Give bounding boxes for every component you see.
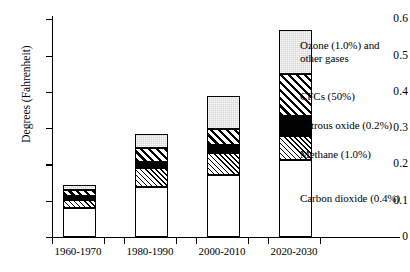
- bar-2000-2010: [207, 96, 240, 237]
- y-axis-line: [52, 16, 53, 238]
- segment-nitrous-oxide: [207, 145, 240, 153]
- x-tick-3: [176, 237, 177, 244]
- segment-methane: [135, 168, 168, 187]
- y-tick-0.1: [46, 201, 53, 202]
- x-tick-6: [268, 237, 269, 244]
- segment-ozone: [207, 96, 240, 130]
- segment-ozone: [135, 134, 168, 148]
- x-tick-1: [104, 237, 105, 244]
- annotation-cfcs: CFCs (50%): [300, 90, 400, 103]
- segment-cfcs: [135, 148, 168, 161]
- x-tick-7: [320, 237, 321, 244]
- x-tick-4: [196, 237, 197, 244]
- y-tick-0.2: [46, 164, 53, 165]
- x-tick-2: [124, 237, 125, 244]
- annotation-carbon-dioxide: Carbon dioxide (0.4%): [300, 192, 410, 205]
- segment-carbon-dioxide: [63, 208, 96, 237]
- segment-methane: [207, 153, 240, 174]
- bar-1980-1990: [135, 134, 168, 237]
- annotation-nitrous-oxide: Nitrous oxide (0.2%): [300, 119, 408, 132]
- x-tick-5: [248, 237, 249, 244]
- y-tick-0.4: [46, 92, 53, 93]
- segment-methane: [63, 200, 96, 208]
- x-label-2020-2030: 2020-2030: [249, 245, 339, 257]
- y-tick-0.3: [46, 128, 53, 129]
- bar-1960-1970: [63, 185, 96, 237]
- annotation-ozone: Ozone (1.0%) and other gases: [300, 39, 405, 64]
- annotation-methane: Methane (1.0%): [300, 148, 405, 161]
- segment-carbon-dioxide: [207, 175, 240, 237]
- y-tick-0.6: [46, 19, 53, 20]
- y-tick-label-0.6: 0.6: [364, 13, 408, 25]
- x-tick-0: [52, 237, 53, 244]
- segment-cfcs: [207, 129, 240, 145]
- y-tick-0.5: [46, 56, 53, 57]
- y-axis-title: Degrees (Fahrenheit): [20, 14, 32, 174]
- segment-carbon-dioxide: [135, 187, 168, 237]
- y-tick-label-0: 0: [364, 231, 408, 243]
